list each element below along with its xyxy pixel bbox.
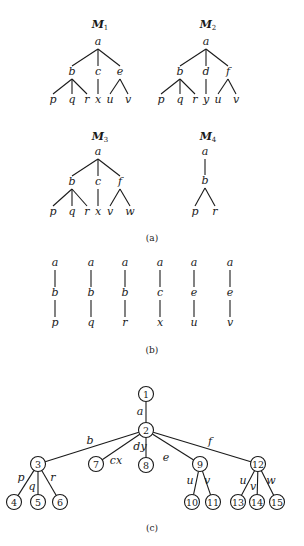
edge-label: b [86, 434, 93, 447]
tree-edge [206, 49, 228, 66]
path-column: aeu [190, 256, 197, 329]
tree-node-label: q [176, 93, 183, 106]
numbered-node: 10 [185, 495, 200, 510]
tree-node-label: a [95, 35, 102, 48]
node-number: 4 [11, 497, 17, 508]
part-c-numbered-tree: abcxdyefpqruvuvw123789124561011131415 [7, 387, 285, 510]
edge-label: f [207, 435, 214, 448]
tree-node-label: r [192, 93, 198, 106]
tree-node-label: f [117, 175, 124, 188]
node-number: 9 [197, 459, 203, 470]
node-number: 12 [252, 459, 264, 470]
path-node-label: e [227, 286, 234, 299]
tree-node-label: a [203, 35, 210, 48]
node-number: 8 [143, 460, 149, 471]
path-node-label: r [122, 316, 128, 329]
edge-label: u [186, 474, 193, 487]
tree-node-label: c [95, 175, 101, 188]
path-node-label: e [191, 286, 198, 299]
numbered-node: 13 [231, 495, 246, 510]
numbered-node: 6 [53, 495, 68, 510]
path-node-label: b [51, 286, 58, 299]
edge-label: v [250, 480, 257, 493]
numbered-node: 7 [89, 457, 104, 472]
path-column: abp [51, 256, 58, 329]
numbered-node: 11 [206, 495, 221, 510]
caption-b: (b) [146, 345, 159, 355]
path-column: abr [121, 256, 128, 329]
tree-node-label: u [214, 93, 221, 106]
path-column: abq [87, 256, 94, 329]
node-number: 1 [143, 389, 149, 400]
tree-node-label: p [49, 205, 56, 218]
path-node-label: c [157, 286, 163, 299]
tree-edge [72, 79, 87, 94]
tree-node-label: u [106, 93, 113, 106]
tree-node-label: f [225, 65, 232, 78]
edge-label: q [28, 480, 35, 493]
edge-label: w [266, 474, 276, 487]
tree-node-label: b [201, 174, 208, 187]
node-number: 13 [232, 497, 244, 508]
tree-edge [257, 471, 258, 494]
edge-label: u [239, 474, 246, 487]
tree-edge [120, 79, 128, 94]
tree-edge [72, 49, 98, 66]
tree-node-label: v [125, 93, 132, 106]
tree-node-label: a [202, 145, 209, 158]
path-node-label: u [190, 316, 197, 329]
tree-edge [180, 49, 206, 66]
tree-node-label: p [157, 93, 164, 106]
path-node-label: x [157, 316, 164, 329]
tree-edge [72, 189, 87, 206]
tree-edge [194, 471, 199, 494]
tree-node-label: p [191, 205, 198, 218]
tree-node-label: c [95, 65, 101, 78]
tree-node-label: b [68, 175, 75, 188]
tree-edge [53, 79, 72, 94]
node-number: 14 [251, 497, 263, 508]
path-node-label: a [191, 256, 198, 269]
tree-node-label: r [84, 205, 90, 218]
node-number: 15 [271, 497, 283, 508]
tree-node-label: d [202, 65, 209, 78]
tree-title: M2 [199, 18, 217, 32]
edge-label: p [17, 471, 24, 484]
tree-edge [110, 189, 120, 206]
tree-node-label: e [117, 65, 124, 78]
path-node-label: a [122, 256, 129, 269]
tree-node-label: x [95, 93, 102, 106]
numbered-node: 8 [139, 458, 154, 473]
part-a-trees: M1abcepqrxuvM2abdfpqryuvM3abcfpqrxvwM4ab… [49, 18, 239, 218]
path-column: aev [227, 256, 234, 329]
numbered-node: 9 [193, 457, 208, 472]
numbered-node: 2 [139, 423, 154, 438]
tree-M2: M2abdfpqryuv [157, 18, 239, 106]
part-b-paths: abpabqabracxaeuaev [51, 256, 233, 329]
node-number: 7 [93, 459, 99, 470]
tree-edge [180, 79, 195, 94]
path-node-label: a [157, 256, 164, 269]
tree-M4: M4abpr [191, 130, 218, 218]
tree-node-label: v [107, 205, 114, 218]
tree-M3: M3abcfpqrxvw [49, 130, 135, 218]
tree-node-label: a [95, 145, 102, 158]
tree-node-label: q [68, 93, 75, 106]
node-number: 6 [57, 497, 63, 508]
edge-label: cx [110, 454, 123, 467]
tree-M1: M1abcepqrxuv [49, 18, 131, 106]
path-node-label: a [88, 256, 95, 269]
path-column: acx [157, 256, 164, 329]
tree-node-label: r [212, 205, 218, 218]
path-node-label: q [87, 316, 94, 329]
edge-label: dy [133, 440, 147, 453]
node-number: 10 [186, 497, 198, 508]
tree-diagram-figure: M1abcepqrxuvM2abdfpqryuvM3abcfpqrxvwM4ab… [0, 0, 304, 546]
tree-edge [218, 79, 228, 94]
tree-edge [110, 79, 120, 94]
edge-label: e [163, 451, 170, 464]
path-node-label: a [52, 256, 59, 269]
tree-node-label: b [176, 65, 183, 78]
edge-label: a [137, 405, 144, 418]
tree-title: M4 [199, 130, 217, 144]
